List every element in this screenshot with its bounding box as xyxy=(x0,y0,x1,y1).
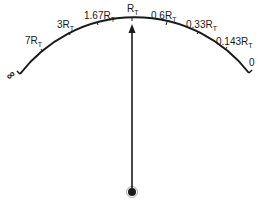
label-3rt: 3RT xyxy=(57,19,75,32)
arc-right-end-hook xyxy=(249,70,252,73)
tick-06rt xyxy=(166,22,167,25)
arc-left-end-hook xyxy=(17,71,20,74)
label-7rt: 7RT xyxy=(25,35,43,48)
label-infinity: ∞ xyxy=(3,67,19,83)
ohmmeter-scale-diagram: ∞ 7RT 3RT 1.67RT RT 0.6RT 0.33RT 0.143RT… xyxy=(0,0,260,203)
label-zero: 0 xyxy=(249,57,255,68)
label-033rt: 0.33RT xyxy=(186,19,218,32)
pointer-pivot xyxy=(128,188,136,196)
label-rt: RT xyxy=(127,3,139,16)
pointer-arrowhead-icon xyxy=(129,24,136,33)
